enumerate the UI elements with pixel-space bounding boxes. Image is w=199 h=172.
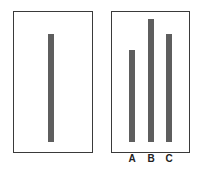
comparison-line-a [129,50,135,142]
label-a: A [126,154,138,164]
comparison-line-b [148,19,154,142]
comparison-line-c [166,34,172,142]
label-c: C [163,154,175,164]
label-b: B [145,154,157,164]
reference-line [48,34,54,142]
